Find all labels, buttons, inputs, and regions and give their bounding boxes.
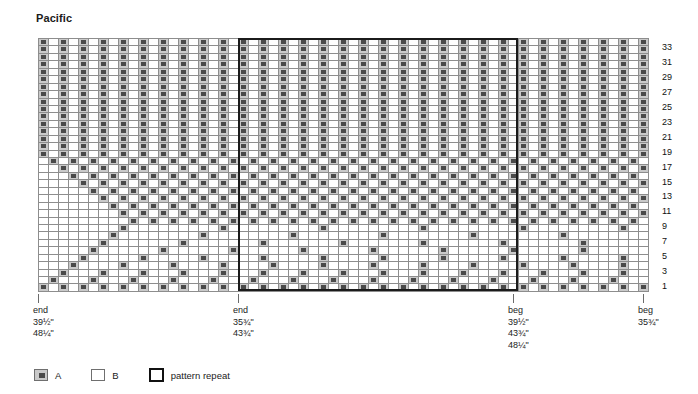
chart-cell: [469, 76, 479, 83]
chart-cell: [639, 232, 649, 239]
chart-cell: [299, 180, 309, 187]
chart-cell: [519, 39, 529, 46]
chart-cell: [119, 217, 129, 224]
chart-cell: [579, 277, 589, 284]
chart-cell: [109, 180, 119, 187]
chart-cell: [339, 83, 349, 90]
chart-cell: [139, 68, 149, 75]
chart-cell: [269, 128, 279, 135]
chart-cell: [99, 91, 109, 98]
chart-cell: [249, 165, 259, 172]
chart-cell: [119, 91, 129, 98]
chart-cell: [299, 284, 309, 291]
chart-cell: [279, 165, 289, 172]
chart-cell: [449, 150, 459, 157]
chart-cell: [389, 239, 399, 246]
chart-cell: [569, 180, 579, 187]
chart-cell: [99, 135, 109, 142]
chart-cell: [489, 61, 499, 68]
chart-cell: [209, 254, 219, 261]
chart-cell: [99, 68, 109, 75]
chart-cell: [409, 254, 419, 261]
chart-cell: [99, 202, 109, 209]
chart-cell: [439, 39, 449, 46]
chart-cell: [509, 165, 519, 172]
chart-cell: [569, 247, 579, 254]
chart-cell: [539, 247, 549, 254]
chart-cell: [289, 150, 299, 157]
chart-cell: [149, 39, 159, 46]
chart-cell: [519, 120, 529, 127]
chart-cell: [459, 195, 469, 202]
chart-cell: [589, 68, 599, 75]
chart-cell: [289, 247, 299, 254]
chart-cell: [99, 150, 109, 157]
legend-label: A: [55, 370, 61, 381]
chart-cell: [619, 262, 629, 269]
chart-cell: [99, 98, 109, 105]
chart-cell: [419, 232, 429, 239]
chart-cell: [259, 76, 269, 83]
chart-cell: [79, 46, 89, 53]
chart-cell: [69, 202, 79, 209]
chart-cell: [399, 83, 409, 90]
chart-cell: [109, 210, 119, 217]
chart-cell: [339, 277, 349, 284]
chart-cell: [239, 284, 249, 291]
chart-cell: [229, 195, 239, 202]
chart-cell: [449, 143, 459, 150]
chart-cell: [369, 98, 379, 105]
chart-cell: [499, 187, 509, 194]
chart-cell: [449, 217, 459, 224]
chart-cell: [379, 187, 389, 194]
chart-cell: [109, 143, 119, 150]
chart-cell: [599, 277, 609, 284]
chart-cell: [419, 202, 429, 209]
chart-cell: [109, 172, 119, 179]
chart-cell: [429, 68, 439, 75]
chart-cell: [349, 195, 359, 202]
chart-cell: [239, 202, 249, 209]
chart-cell: [309, 61, 319, 68]
chart-cell: [149, 165, 159, 172]
chart-cell: [69, 46, 79, 53]
chart-row: [39, 217, 649, 224]
chart-cell: [149, 277, 159, 284]
chart-cell: [329, 277, 339, 284]
chart-cell: [539, 269, 549, 276]
chart-cell: [159, 202, 169, 209]
chart-cell: [59, 61, 69, 68]
chart-cell: [439, 83, 449, 90]
chart-cell: [129, 53, 139, 60]
chart-cell: [489, 217, 499, 224]
chart-cell: [519, 105, 529, 112]
chart-cell: [469, 165, 479, 172]
chart-cell: [409, 135, 419, 142]
chart-cell: [319, 76, 329, 83]
chart-cell: [289, 210, 299, 217]
chart-cell: [189, 224, 199, 231]
chart-cell: [489, 76, 499, 83]
chart-cell: [159, 68, 169, 75]
chart-cell: [399, 262, 409, 269]
chart-cell: [379, 76, 389, 83]
chart-cell: [249, 143, 259, 150]
chart-cell: [329, 53, 339, 60]
chart-cell: [89, 187, 99, 194]
chart-cell: [269, 143, 279, 150]
chart-cell: [139, 150, 149, 157]
chart-cell: [599, 61, 609, 68]
chart-cell: [249, 61, 259, 68]
chart-cell: [379, 247, 389, 254]
chart-cell: [409, 143, 419, 150]
chart-cell: [319, 150, 329, 157]
chart-cell: [609, 210, 619, 217]
chart-cell: [619, 76, 629, 83]
chart-cell: [129, 277, 139, 284]
chart-cell: [59, 135, 69, 142]
chart-cell: [549, 232, 559, 239]
chart-cell: [249, 284, 259, 291]
chart-cell: [399, 158, 409, 165]
chart-cell: [229, 98, 239, 105]
chart-cell: [269, 158, 279, 165]
